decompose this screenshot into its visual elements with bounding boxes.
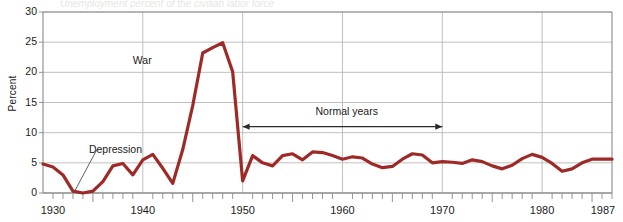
- annotation-war: War: [133, 54, 152, 66]
- data-series-line: [43, 43, 612, 193]
- grid-lines: [43, 12, 612, 193]
- annotation-leaders: [75, 123, 442, 190]
- annotation-normal-years: Normal years: [316, 105, 378, 117]
- plot-area: [0, 0, 623, 222]
- chart-figure: Unemployment percent of the civilian lab…: [0, 0, 623, 222]
- annotation-depression: Depression: [89, 143, 142, 155]
